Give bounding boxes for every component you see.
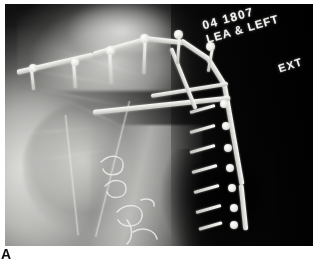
shaft-screw bbox=[190, 104, 216, 114]
plate-oblique-strut bbox=[169, 47, 197, 110]
plate-segment bbox=[144, 36, 184, 45]
screw-head bbox=[224, 144, 232, 152]
screw-head bbox=[140, 34, 149, 43]
shaft-screw bbox=[196, 204, 222, 214]
screw-head bbox=[71, 58, 79, 66]
screw-head bbox=[228, 184, 236, 192]
screw-head bbox=[174, 30, 183, 39]
screw-head bbox=[106, 46, 115, 55]
plate-shaft-segment bbox=[239, 184, 249, 230]
xray-image: 04 1807 LEA & LEFT EXT bbox=[5, 4, 313, 246]
plate-shaft-segment bbox=[222, 82, 245, 185]
locking-screw bbox=[176, 34, 181, 64]
shaft-screw bbox=[199, 221, 223, 230]
shaft-screw bbox=[190, 124, 216, 134]
screw-head bbox=[29, 64, 37, 72]
orthopedic-implant-group bbox=[5, 4, 313, 246]
plate-segment bbox=[206, 57, 227, 87]
plate-segment bbox=[180, 38, 211, 61]
plate-segment bbox=[92, 37, 145, 56]
screw-head bbox=[226, 164, 234, 172]
shaft-screw bbox=[192, 164, 218, 174]
plate-segment bbox=[16, 53, 93, 75]
plate-cross-strut bbox=[93, 96, 231, 115]
screw-head bbox=[230, 204, 238, 212]
panel-label: A bbox=[1, 247, 11, 261]
locking-screw bbox=[72, 62, 77, 88]
shaft-screw bbox=[194, 184, 220, 194]
screw-head bbox=[230, 221, 238, 229]
xray-canvas: 04 1807 LEA & LEFT EXT bbox=[5, 4, 313, 246]
locking-screw bbox=[207, 46, 215, 72]
locking-screw bbox=[108, 50, 113, 84]
plate-cross-strut bbox=[151, 82, 229, 98]
shaft-screw bbox=[190, 144, 216, 154]
locking-screw bbox=[142, 38, 146, 74]
screw-head bbox=[220, 100, 228, 108]
locking-screw bbox=[30, 68, 35, 90]
figure-panel: 04 1807 LEA & LEFT EXT A bbox=[0, 0, 319, 275]
screw-head bbox=[222, 122, 230, 130]
